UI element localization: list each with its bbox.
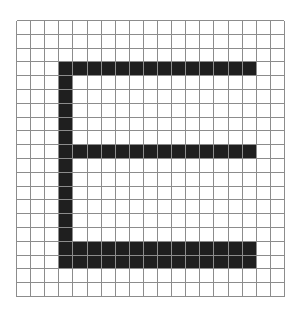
glyph-filled-run bbox=[58, 117, 72, 131]
glyph-filled-run bbox=[58, 186, 72, 200]
glyph-filled-run bbox=[58, 75, 72, 89]
glyph-filled-run bbox=[58, 213, 72, 227]
glyph-filled-run bbox=[58, 130, 72, 144]
grid-lines-layer bbox=[17, 21, 285, 297]
glyph-filled-run bbox=[58, 103, 72, 117]
grid-svg bbox=[0, 0, 298, 314]
grid-letter-canvas bbox=[0, 0, 298, 314]
glyph-filled-run bbox=[58, 89, 72, 103]
glyph-filled-run bbox=[58, 199, 72, 213]
glyph-filled-run bbox=[58, 158, 72, 172]
glyph-filled-run bbox=[58, 227, 72, 241]
glyph-filled-run bbox=[58, 172, 72, 186]
